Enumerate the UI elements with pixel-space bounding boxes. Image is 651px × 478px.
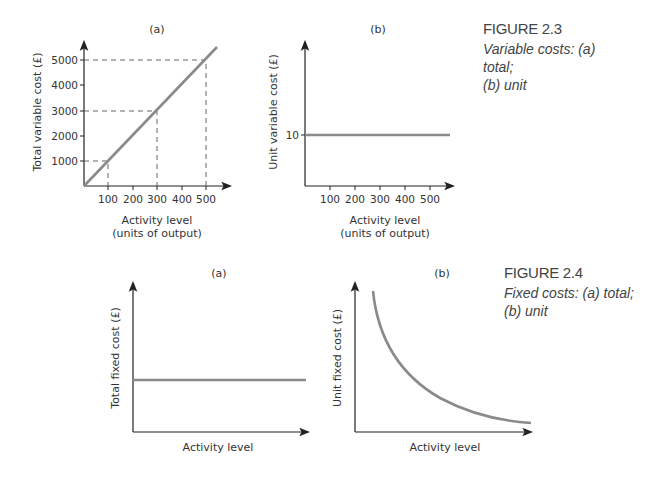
x-axis-label: Activity level xyxy=(350,214,421,227)
chart-fig24b: (b) Activity level Unit fixed cost (£) xyxy=(331,267,531,454)
figure-number: FIGURE 2.4 xyxy=(504,264,634,281)
y-axis-label: Unit variable cost (£) xyxy=(267,54,280,170)
y-axis-label: Unit fixed cost (£) xyxy=(331,309,344,407)
svg-text:200: 200 xyxy=(345,193,365,205)
total-variable-cost-line xyxy=(84,47,217,186)
figure-description: Variable costs: (a) total; (b) unit xyxy=(483,40,613,94)
x-axis-sublabel: (units of output) xyxy=(340,227,430,240)
x-axis-label: Activity level xyxy=(122,214,193,227)
svg-text:100: 100 xyxy=(320,193,340,205)
svg-text:1000: 1000 xyxy=(51,155,78,167)
svg-text:400: 400 xyxy=(172,193,192,205)
x-axis-label: Activity level xyxy=(183,441,254,454)
x-axis-sublabel: (units of output) xyxy=(112,227,202,240)
y-tick-label: 10 xyxy=(286,129,299,141)
panel-label: (a) xyxy=(149,23,164,36)
x-axis-label: Activity level xyxy=(410,441,481,454)
svg-text:2000: 2000 xyxy=(51,130,78,142)
svg-text:300: 300 xyxy=(147,193,167,205)
svg-text:300: 300 xyxy=(370,193,390,205)
y-axis-label: Total variable cost (£) xyxy=(31,53,44,173)
svg-text:500: 500 xyxy=(420,193,440,205)
figure-2-4-caption: FIGURE 2.4 Fixed costs: (a) total; (b) u… xyxy=(504,264,634,320)
figure-description: Fixed costs: (a) total; (b) unit xyxy=(504,284,634,320)
svg-text:400: 400 xyxy=(395,193,415,205)
panel-label: (b) xyxy=(370,23,386,36)
figure-2-3-caption: FIGURE 2.3 Variable costs: (a) total; (b… xyxy=(483,20,613,94)
x-tick-labels: 100 200 300 400 500 xyxy=(98,193,216,205)
panel-label: (b) xyxy=(434,267,450,280)
chart-fig23b: (b) 10 100 200 300 400 500 Activity leve… xyxy=(267,23,453,240)
svg-text:100: 100 xyxy=(98,193,118,205)
y-axis-label: Total fixed cost (£) xyxy=(109,307,122,409)
svg-text:4000: 4000 xyxy=(51,79,78,91)
svg-text:200: 200 xyxy=(123,193,143,205)
y-tick-labels: 1000 2000 3000 4000 5000 xyxy=(51,54,78,167)
panel-label: (a) xyxy=(211,267,226,280)
chart-fig24a: (a) Activity level Total fixed cost (£) xyxy=(109,267,308,454)
svg-text:5000: 5000 xyxy=(51,54,78,66)
svg-text:500: 500 xyxy=(196,193,216,205)
figure-number: FIGURE 2.3 xyxy=(483,20,613,37)
x-tick-labels: 100 200 300 400 500 xyxy=(320,193,440,205)
chart-fig23a: (a) 1000 2000 3000 4000 5000 xyxy=(31,23,230,240)
svg-text:3000: 3000 xyxy=(51,105,78,117)
